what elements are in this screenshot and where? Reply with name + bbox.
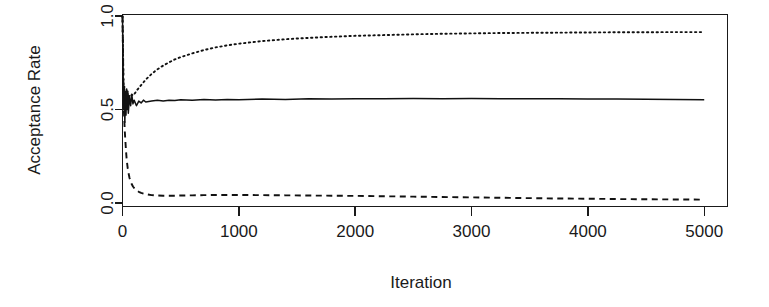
y-tick-label: 1.0 bbox=[98, 4, 117, 28]
x-tick-label: 5000 bbox=[685, 222, 723, 241]
y-axis-title: Acceptance Rate bbox=[25, 45, 44, 174]
y-tick-label: 0.0 bbox=[98, 191, 117, 215]
x-axis-title: Iteration bbox=[390, 273, 451, 292]
y-tick-label: 0.5 bbox=[98, 98, 117, 122]
x-tick-label: 3000 bbox=[453, 222, 491, 241]
acceptance-rate-line-chart: 0.00.51.0 010002000300040005000 Acceptan… bbox=[0, 0, 769, 307]
chart-background bbox=[0, 0, 769, 307]
x-tick-label: 2000 bbox=[336, 222, 374, 241]
x-tick-label: 0 bbox=[118, 222, 127, 241]
chart-container: 0.00.51.0 010002000300040005000 Acceptan… bbox=[0, 0, 769, 307]
x-tick-label: 1000 bbox=[220, 222, 258, 241]
x-tick-label: 4000 bbox=[569, 222, 607, 241]
